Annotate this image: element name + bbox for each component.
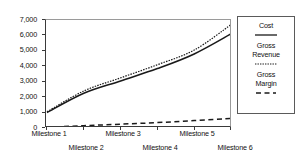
x-tick-mark	[83, 127, 84, 130]
plot-inner	[46, 20, 230, 126]
legend-label-gross-revenue-line2: Revenue	[252, 51, 280, 59]
x-tick-label-milestone-3: Milestone 3	[105, 130, 140, 138]
y-tick-label: 7,000	[20, 16, 37, 23]
x-tick-label-milestone-5: Milestone 5	[179, 130, 214, 138]
legend-swatch-dotted-icon	[255, 61, 277, 67]
legend-label-cost: Cost	[259, 22, 273, 30]
x-tick-label-milestone-6: Milestone 6	[217, 144, 252, 152]
series-layer	[46, 20, 230, 126]
legend: Cost Gross Revenue Gross Margin	[237, 16, 295, 114]
y-tick-label: 3,000	[20, 77, 37, 84]
legend-swatch-dashed-icon	[255, 90, 277, 96]
x-tick-mark	[230, 127, 231, 130]
y-tick-label: 5,000	[20, 46, 37, 53]
x-tick-mark	[157, 127, 158, 130]
x-tick-label-milestone-1: Milestone 1	[31, 130, 66, 138]
x-tick-label-milestone-4: Milestone 4	[142, 144, 177, 152]
x-tick-label-milestone-2: Milestone 2	[68, 144, 103, 152]
chart-root: 7,000 6,000 5,000 4,000 3,000 2,000 1,00…	[0, 0, 299, 159]
legend-swatch-solid-icon	[255, 32, 277, 38]
legend-entry-gross-revenue: Gross Revenue	[238, 42, 294, 68]
y-axis: 7,000 6,000 5,000 4,000 3,000 2,000 1,00…	[0, 0, 44, 148]
y-tick-label: 6,000	[20, 31, 37, 38]
y-tick-label: 2,000	[20, 93, 37, 100]
y-tick-mark	[42, 127, 45, 128]
legend-label-gross-margin-line2: Margin	[255, 80, 276, 88]
legend-entry-gross-margin: Gross Margin	[238, 71, 294, 97]
y-tick-label: 4,000	[20, 62, 37, 69]
legend-entry-cost: Cost	[238, 22, 294, 39]
series-line-gross-margin	[47, 118, 230, 126]
plot-area	[45, 19, 231, 127]
series-line-cost	[47, 34, 230, 113]
series-line-gross-revenue	[47, 25, 230, 112]
y-tick-label: 1,000	[20, 108, 37, 115]
